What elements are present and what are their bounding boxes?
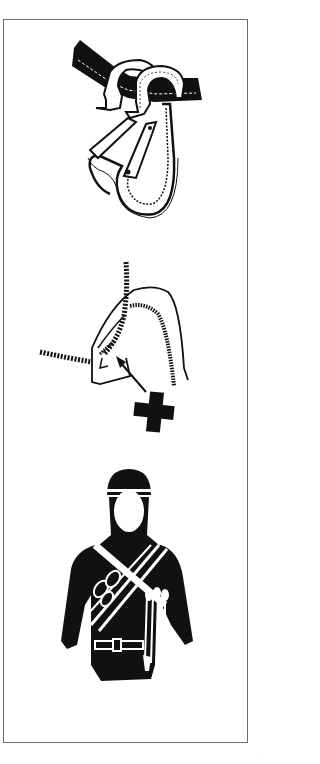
climber-with-gear-sling-illustration <box>55 465 205 690</box>
carabiner-icon <box>70 38 210 223</box>
wrong-cross-icon <box>133 391 174 432</box>
page-mark: ·· <box>261 755 265 761</box>
carabiner-on-sling-illustration <box>70 38 210 223</box>
buckle-icon <box>113 639 121 651</box>
wrong-clip-illustration <box>38 258 198 433</box>
